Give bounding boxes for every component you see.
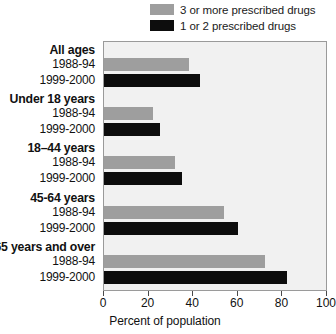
- legend-swatch-icon: [150, 20, 174, 31]
- period-label: 1999-2000: [39, 123, 95, 136]
- x-axis-tick-label: 20: [141, 296, 154, 310]
- bar: [104, 74, 200, 87]
- period-label: 1988-94: [52, 206, 95, 219]
- legend-swatch-icon: [150, 4, 174, 15]
- age-group-label: All ages: [49, 44, 95, 57]
- legend-label: 1 or 2 prescribed drugs: [180, 20, 296, 32]
- legend-label: 3 or more prescribed drugs: [180, 4, 315, 16]
- bar: [104, 271, 287, 284]
- bar: [104, 206, 224, 219]
- period-label: 1999-2000: [39, 271, 95, 284]
- x-axis-tick-label: 0: [100, 296, 107, 310]
- period-label: 1988-94: [52, 107, 95, 120]
- bar: [104, 222, 238, 235]
- bar: [104, 58, 189, 71]
- category-axis-labels: All ages1988-941999-2000Under 18 years19…: [0, 41, 99, 291]
- age-group-label: 65 years and over: [0, 241, 95, 254]
- x-axis-tick-labels: 020406080100: [0, 296, 330, 312]
- bar: [104, 156, 175, 169]
- bar: [104, 107, 153, 120]
- bars-layer: [104, 42, 326, 290]
- x-axis-tick-label: 100: [316, 296, 336, 310]
- x-axis-tick-label: 60: [230, 296, 243, 310]
- x-axis-tick-label: 40: [186, 296, 199, 310]
- period-label: 1988-94: [52, 156, 95, 169]
- chart-legend: 3 or more prescribed drugs1 or 2 prescri…: [150, 2, 330, 34]
- period-label: 1988-94: [52, 255, 95, 268]
- period-label: 1999-2000: [39, 172, 95, 185]
- period-label: 1988-94: [52, 58, 95, 71]
- legend-item: 3 or more prescribed drugs: [150, 2, 330, 17]
- bar: [104, 172, 182, 185]
- age-group-label: 45-64 years: [30, 192, 95, 205]
- age-group-label: 18–44 years: [27, 142, 95, 155]
- period-label: 1999-2000: [39, 74, 95, 87]
- period-label: 1999-2000: [39, 222, 95, 235]
- legend-item: 1 or 2 prescribed drugs: [150, 18, 330, 33]
- bar: [104, 123, 160, 136]
- age-group-label: Under 18 years: [10, 93, 95, 106]
- x-axis-title: Percent of population: [0, 314, 330, 328]
- x-axis-tick-label: 80: [275, 296, 288, 310]
- bar: [104, 255, 265, 268]
